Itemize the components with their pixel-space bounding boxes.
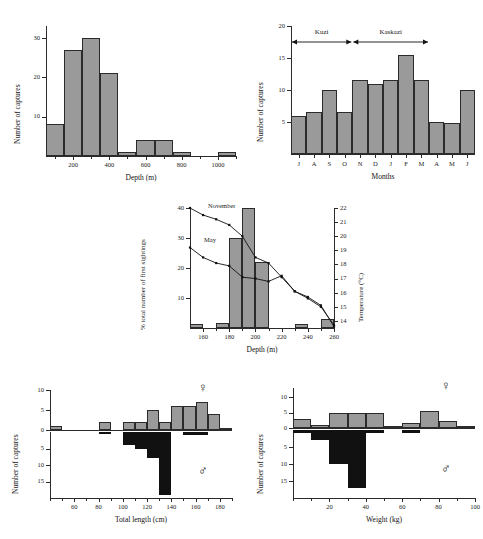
histogram-bar bbox=[46, 124, 64, 156]
axis-tick bbox=[218, 156, 219, 160]
histogram-bar bbox=[368, 84, 383, 154]
axis-tick bbox=[91, 156, 92, 159]
x-tick-label: 120 bbox=[142, 504, 152, 511]
y-tick-label-female: 10 bbox=[281, 394, 288, 401]
histogram-bar-female bbox=[366, 413, 384, 428]
histogram-bar-female bbox=[123, 422, 135, 430]
histogram-bar-female bbox=[99, 422, 111, 430]
x-axis-female bbox=[293, 428, 475, 429]
histogram-bar bbox=[306, 112, 321, 154]
chart-weight-by-sex: 05105101520406080100Weight (kg)Number of… bbox=[245, 372, 483, 539]
x-tick-label: 160 bbox=[191, 504, 201, 511]
axis-tick bbox=[391, 154, 392, 158]
x-tick-label: 240 bbox=[303, 334, 313, 341]
series-label-november: November bbox=[208, 202, 235, 209]
axis-tick bbox=[375, 154, 376, 158]
axis-tick bbox=[73, 156, 74, 160]
axis-tick bbox=[475, 498, 476, 502]
y-axis-title: Number of captures bbox=[12, 434, 20, 494]
y-tick-label-male: 10 bbox=[281, 461, 288, 468]
y-tick-label-male: 15 bbox=[38, 478, 45, 485]
axis-tick bbox=[46, 410, 50, 411]
y-tick-label: 30 bbox=[34, 35, 41, 42]
axis-tick bbox=[311, 498, 312, 501]
histogram-bar-female bbox=[147, 410, 159, 430]
x-axis-title: Total length (cm) bbox=[115, 516, 167, 524]
histogram-bar bbox=[64, 50, 82, 156]
axis-tick bbox=[86, 498, 87, 501]
histogram-bar bbox=[383, 80, 398, 154]
axis-tick bbox=[220, 498, 221, 502]
axis-tick bbox=[345, 154, 346, 158]
axis-tick bbox=[109, 156, 110, 160]
x-tick-label: 160 bbox=[198, 334, 208, 341]
histogram-bar-male bbox=[293, 430, 311, 433]
x-axis-female bbox=[50, 430, 232, 431]
x-tick-label: 400 bbox=[104, 162, 114, 169]
male-symbol: ♂ bbox=[441, 462, 451, 475]
histogram-bar bbox=[414, 80, 429, 154]
histogram-bar-female bbox=[348, 413, 366, 428]
y-tick-label-male: 5 bbox=[284, 444, 287, 451]
histogram-bar-female bbox=[196, 402, 208, 430]
axis-tick bbox=[314, 154, 315, 158]
axis-tick bbox=[420, 498, 421, 501]
axis-tick bbox=[287, 122, 291, 123]
axis-tick bbox=[46, 449, 50, 450]
axis-tick bbox=[360, 154, 361, 158]
histogram-bar bbox=[100, 73, 118, 156]
axis-tick bbox=[46, 430, 50, 431]
male-symbol: ♂ bbox=[198, 464, 208, 477]
axis-tick bbox=[437, 154, 438, 158]
axis-tick bbox=[74, 498, 75, 502]
x-tick-label: 200 bbox=[251, 334, 261, 341]
y2-tick-label: 19 bbox=[340, 247, 347, 254]
axis-tick bbox=[366, 498, 367, 502]
x-tick-label: 80 bbox=[435, 504, 442, 511]
month-tick-label: J bbox=[466, 161, 469, 168]
histogram-bar-male bbox=[135, 432, 147, 449]
axis-tick bbox=[46, 465, 50, 466]
histogram-bar-male bbox=[123, 432, 135, 445]
y2-tick-label: 22 bbox=[340, 205, 347, 212]
x-tick-label: 220 bbox=[277, 334, 287, 341]
axis-tick bbox=[402, 498, 403, 502]
axis-tick bbox=[99, 498, 100, 502]
axis-tick bbox=[50, 498, 51, 501]
y-tick-label: 10 bbox=[279, 87, 286, 94]
histogram-bar-female bbox=[420, 411, 438, 428]
x-tick-label: 180 bbox=[215, 504, 225, 511]
x-axis-title: Weight (kg) bbox=[366, 516, 402, 524]
histogram-bar bbox=[398, 55, 413, 154]
x-tick-label: 260 bbox=[329, 334, 339, 341]
y-axis-title: Number of captures bbox=[257, 434, 265, 494]
axis-tick bbox=[127, 156, 128, 159]
x-tick-label: 600 bbox=[141, 162, 151, 169]
axis-tick bbox=[299, 154, 300, 158]
axis-tick bbox=[200, 156, 201, 159]
axis-tick bbox=[147, 498, 148, 502]
histogram-bar-female bbox=[159, 422, 171, 430]
y-tick-label: 20 bbox=[178, 265, 185, 272]
axis-tick bbox=[452, 154, 453, 158]
axis-tick bbox=[159, 498, 160, 501]
y-axis-title: Number of captures bbox=[14, 84, 22, 144]
y2-tick-label: 17 bbox=[340, 275, 347, 282]
axis-tick bbox=[146, 156, 147, 160]
histogram-bar-female bbox=[208, 414, 220, 430]
x-tick-label: 20 bbox=[326, 504, 333, 511]
axis-tick bbox=[183, 498, 184, 501]
axis-tick bbox=[457, 498, 458, 501]
y-tick-label: 10 bbox=[178, 295, 185, 302]
x-axis-male bbox=[50, 498, 232, 499]
x-axis-title: Depth (m) bbox=[246, 346, 277, 354]
x-tick-label: 800 bbox=[177, 162, 187, 169]
axis-tick bbox=[208, 498, 209, 501]
axis-tick bbox=[182, 156, 183, 160]
y-tick-label-female: 10 bbox=[38, 387, 45, 394]
y-axis-male bbox=[293, 430, 294, 498]
y-tick-label-male: 15 bbox=[281, 478, 288, 485]
histogram-bar-female bbox=[220, 428, 232, 430]
axis-tick bbox=[289, 447, 293, 448]
histogram-bar-male bbox=[159, 432, 171, 495]
